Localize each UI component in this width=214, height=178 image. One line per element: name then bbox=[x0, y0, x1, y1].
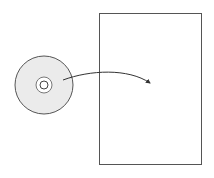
page-rectangle bbox=[100, 14, 202, 165]
diagram-canvas bbox=[0, 0, 214, 178]
disc-center-hole bbox=[40, 81, 48, 89]
disc-icon bbox=[15, 56, 73, 114]
